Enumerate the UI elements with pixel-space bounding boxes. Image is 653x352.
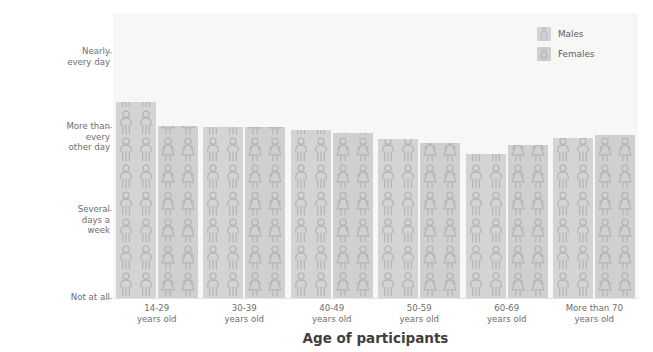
male-pictogram-icon: [311, 271, 331, 298]
male-pictogram-icon: [223, 136, 243, 163]
pictogram-fill: [333, 133, 373, 298]
male-pictogram-icon: [116, 271, 136, 298]
male-pictogram-icon: [398, 271, 418, 298]
y-tick-mark-2: [105, 127, 112, 128]
bar-males-group-2[interactable]: [203, 127, 243, 298]
y-tick-line-1: Nearly: [82, 46, 110, 56]
bar-females-group-6[interactable]: [595, 135, 635, 298]
x-tick-label-group-5: 60-69years old: [457, 303, 557, 325]
pictogram-fill: [595, 135, 635, 298]
male-pictogram-icon: [291, 190, 311, 217]
male-pictogram-icon: [311, 244, 331, 271]
legend-item-males[interactable]: Males: [537, 25, 594, 42]
male-pictogram-icon: [573, 190, 593, 217]
bar-males-group-5[interactable]: [466, 154, 506, 298]
male-pictogram-icon: [291, 163, 311, 190]
female-pictogram-icon: [333, 136, 353, 163]
x-axis-title: Age of participants: [113, 330, 638, 346]
y-tick-line-2: every: [86, 132, 110, 142]
male-pictogram-icon: [223, 244, 243, 271]
female-pictogram-icon: [265, 244, 285, 271]
bar-females-group-4[interactable]: [420, 143, 460, 298]
bar-females-group-2[interactable]: [245, 127, 285, 298]
male-pictogram-icon: [203, 217, 223, 244]
female-pictogram-icon: [615, 163, 635, 190]
x-tick-line-2: years old: [137, 314, 176, 324]
female-pictogram-icon: [333, 244, 353, 271]
bar-males-group-4[interactable]: [378, 139, 418, 298]
female-pictogram-icon: [420, 143, 440, 163]
male-pictogram-icon: [466, 244, 486, 271]
female-pictogram-icon: [420, 163, 440, 190]
female-pictogram-icon: [508, 271, 528, 298]
y-tick-line-3: week: [87, 225, 110, 235]
bar-females-group-1[interactable]: [158, 126, 198, 298]
x-tick-line-1: More than 70: [566, 303, 623, 313]
male-pictogram-icon: [223, 271, 243, 298]
male-pictogram-icon: [136, 109, 156, 136]
x-tick-line-2: years old: [575, 314, 614, 324]
male-pictogram-icon: [398, 190, 418, 217]
male-pictogram-icon: [116, 217, 136, 244]
male-pictogram-icon: [311, 136, 331, 163]
male-pictogram-icon: [136, 136, 156, 163]
female-pictogram-icon: [508, 145, 528, 163]
female-pictogram-icon: [178, 126, 198, 136]
x-tick-label-group-3: 40-49years old: [282, 303, 382, 325]
male-pictogram-icon: [398, 217, 418, 244]
bar-females-group-5[interactable]: [508, 145, 548, 298]
female-pictogram-icon: [595, 163, 615, 190]
bar-males-group-3[interactable]: [291, 130, 331, 298]
female-pictogram-icon: [615, 136, 635, 163]
x-tick-line-2: years old: [487, 314, 526, 324]
male-pictogram-icon: [311, 190, 331, 217]
female-pictogram-icon: [265, 163, 285, 190]
female-pictogram-icon: [178, 163, 198, 190]
y-tick-mark-1: [105, 210, 112, 211]
legend-item-females[interactable]: Females: [537, 45, 594, 62]
male-pictogram-icon: [203, 163, 223, 190]
pictogram-fill: [508, 145, 548, 298]
bar-females-group-3[interactable]: [333, 133, 373, 298]
x-tick-line-2: years old: [312, 314, 351, 324]
female-pictogram-icon: [265, 190, 285, 217]
male-pictogram-icon: [291, 271, 311, 298]
male-pictogram-icon: [291, 217, 311, 244]
male-pictogram-icon: [291, 136, 311, 163]
female-pictogram-icon: [245, 244, 265, 271]
bar-males-group-1[interactable]: [116, 102, 156, 298]
female-pictogram-icon: [333, 163, 353, 190]
male-pictogram-icon: [203, 136, 223, 163]
female-pictogram-icon: [440, 271, 460, 298]
legend-label-females: Females: [558, 49, 594, 59]
female-pictogram-icon: [595, 190, 615, 217]
male-pictogram-icon: [378, 244, 398, 271]
female-pictogram-icon: [508, 163, 528, 190]
male-pictogram-icon: [203, 127, 223, 136]
male-pictogram-icon: [223, 127, 243, 136]
male-pictogram-icon: [553, 190, 573, 217]
female-pictogram-icon: [440, 217, 460, 244]
male-pictogram-icon: [203, 271, 223, 298]
x-tick-line-1: 50-59: [407, 303, 432, 313]
male-pictogram-icon: [378, 271, 398, 298]
female-pictogram-icon: [245, 163, 265, 190]
x-tick-label-group-6: More than 70years old: [544, 303, 644, 325]
female-pictogram-icon: [245, 271, 265, 298]
male-pictogram-icon: [573, 163, 593, 190]
male-pictogram-icon: [553, 244, 573, 271]
male-pictogram-icon: [116, 102, 136, 109]
bar-males-group-6[interactable]: [553, 138, 593, 298]
male-pictogram-icon: [573, 138, 593, 163]
female-pictogram-icon: [333, 271, 353, 298]
male-pictogram-icon: [311, 163, 331, 190]
pictogram-fill: [378, 139, 418, 298]
male-pictogram-icon: [486, 217, 506, 244]
male-pictogram-icon: [573, 244, 593, 271]
male-pictogram-icon: [466, 163, 486, 190]
female-pictogram-icon: [440, 163, 460, 190]
female-pictogram-icon: [353, 190, 373, 217]
female-pictogram-icon: [420, 271, 440, 298]
female-pictogram-icon: [245, 127, 265, 136]
male-pictogram-icon: [486, 190, 506, 217]
